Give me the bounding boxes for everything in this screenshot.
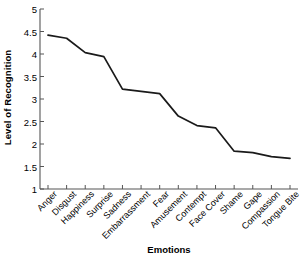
y-tick-label: 1.5 <box>24 161 37 172</box>
plot-area <box>40 9 298 189</box>
y-axis-ticks <box>40 9 44 189</box>
y-tick-label: 2.5 <box>24 116 37 127</box>
axis-lines <box>40 9 298 189</box>
y-axis-title: Level of Recognition <box>0 0 16 195</box>
y-tick-label: 2 <box>32 139 37 150</box>
data-series-line <box>48 35 290 158</box>
y-tick-label: 3 <box>32 94 37 105</box>
x-axis-tick-labels: AngerDisgustHappinessSurpriseSadnessEmba… <box>40 189 298 247</box>
line-chart: Level of Recognition 11.522.533.544.55 A… <box>0 0 308 262</box>
x-axis-title: Emotions <box>40 244 298 255</box>
y-tick-label: 4 <box>32 49 37 60</box>
y-axis-title-text: Level of Recognition <box>3 50 14 145</box>
y-tick-label: 4.5 <box>24 26 37 37</box>
y-axis-tick-labels: 11.522.533.544.55 <box>16 0 40 195</box>
y-tick-label: 5 <box>32 4 37 15</box>
y-tick-label: 3.5 <box>24 71 37 82</box>
plot-svg <box>40 9 298 189</box>
y-tick-label: 1 <box>32 184 37 195</box>
